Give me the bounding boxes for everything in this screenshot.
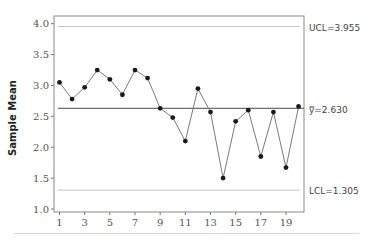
data-point xyxy=(107,77,112,82)
data-point xyxy=(120,92,125,97)
x-tick-label: 5 xyxy=(107,217,113,228)
lcl-label: LCL=1.305 xyxy=(309,186,359,196)
control-chart: 1.01.52.02.53.03.54.0 135791113151719 Sa… xyxy=(0,0,369,244)
data-point xyxy=(296,104,301,109)
center-line-label: y̿=2.630 xyxy=(309,105,348,115)
data-point xyxy=(170,115,175,120)
y-axis: 1.01.52.02.53.03.54.0 xyxy=(33,18,54,214)
x-tick-label: 11 xyxy=(179,217,192,228)
x-tick-label: 15 xyxy=(229,217,242,228)
data-point xyxy=(70,97,75,102)
x-tick-label: 9 xyxy=(157,217,163,228)
data-point xyxy=(82,85,87,90)
plot-frame xyxy=(54,16,304,212)
y-tick-label: 1.5 xyxy=(33,173,49,184)
x-tick-label: 7 xyxy=(132,217,138,228)
data-series xyxy=(57,68,301,181)
data-point xyxy=(57,80,62,85)
x-axis: 135791113151719 xyxy=(56,212,292,228)
data-point xyxy=(95,68,100,73)
x-tick-label: 19 xyxy=(280,217,293,228)
data-point xyxy=(221,176,226,181)
y-tick-label: 3.0 xyxy=(33,80,49,91)
y-tick-label: 4.0 xyxy=(33,18,49,29)
y-axis-label: Sample Mean xyxy=(7,80,18,156)
data-point xyxy=(258,154,263,159)
control-limit-lines xyxy=(58,26,304,190)
data-point xyxy=(246,108,251,113)
y-tick-label: 2.5 xyxy=(33,111,49,122)
series-line xyxy=(60,70,299,178)
ucl-label: UCL=3.955 xyxy=(309,23,360,33)
x-tick-label: 3 xyxy=(81,217,87,228)
data-point xyxy=(284,165,289,170)
data-point xyxy=(196,86,201,91)
y-tick-label: 2.0 xyxy=(33,142,49,153)
data-point xyxy=(233,119,238,124)
plot-border xyxy=(54,16,304,212)
y-tick-label: 3.5 xyxy=(33,49,49,60)
data-point xyxy=(183,139,188,144)
x-tick-label: 17 xyxy=(254,217,267,228)
data-point xyxy=(271,110,276,115)
data-point xyxy=(158,106,163,111)
data-point xyxy=(133,68,138,73)
data-point xyxy=(145,76,150,81)
x-tick-label: 13 xyxy=(204,217,217,228)
y-tick-label: 1.0 xyxy=(33,204,49,215)
bottom-divider xyxy=(14,233,359,234)
data-point xyxy=(208,110,213,115)
x-tick-label: 1 xyxy=(56,217,62,228)
